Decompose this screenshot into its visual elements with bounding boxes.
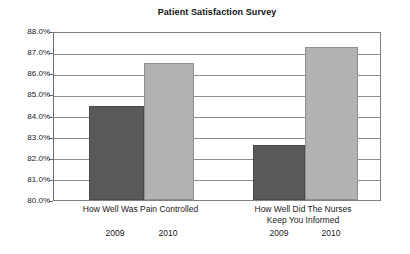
series-label-2009: 2009: [259, 228, 299, 238]
category-label-line: How Well Did The Nurses: [228, 204, 378, 215]
chart-container: Patient Satisfaction Survey 88.0%87.0%86…: [0, 0, 410, 254]
series-label-2010: 2010: [148, 228, 188, 238]
y-axis-labels: 88.0%87.0%86.0%85.0%84.0%83.0%82.0%81.0%…: [0, 32, 50, 201]
bar-2010: [144, 63, 194, 200]
category-label-line: How Well Was Pain Controlled: [63, 204, 218, 215]
category-label-pain-controlled: How Well Was Pain Controlled: [63, 204, 218, 215]
plot-area: [53, 32, 381, 201]
chart-title: Patient Satisfaction Survey: [53, 7, 381, 17]
y-axis-tick-label: 86.0%: [4, 70, 50, 78]
bar-2009: [253, 145, 305, 200]
series-label-2009: 2009: [95, 228, 135, 238]
category-label-nurses-informed: How Well Did The NursesKeep You Informed: [228, 204, 378, 225]
y-axis-tick-label: 82.0%: [4, 155, 50, 163]
y-axis-tick-label: 84.0%: [4, 113, 50, 121]
y-axis-tick-label: 87.0%: [4, 49, 50, 57]
bar-2009: [89, 106, 144, 200]
series-label-2010: 2010: [311, 228, 351, 238]
category-label-line: Keep You Informed: [228, 215, 378, 226]
bar-2010: [305, 47, 358, 200]
y-axis-tick-label: 85.0%: [4, 91, 50, 99]
y-axis-tick-label: 80.0%: [4, 197, 50, 205]
y-axis-tick-label: 83.0%: [4, 134, 50, 142]
y-axis-tick-label: 88.0%: [4, 28, 50, 36]
y-axis-tick-label: 81.0%: [4, 176, 50, 184]
